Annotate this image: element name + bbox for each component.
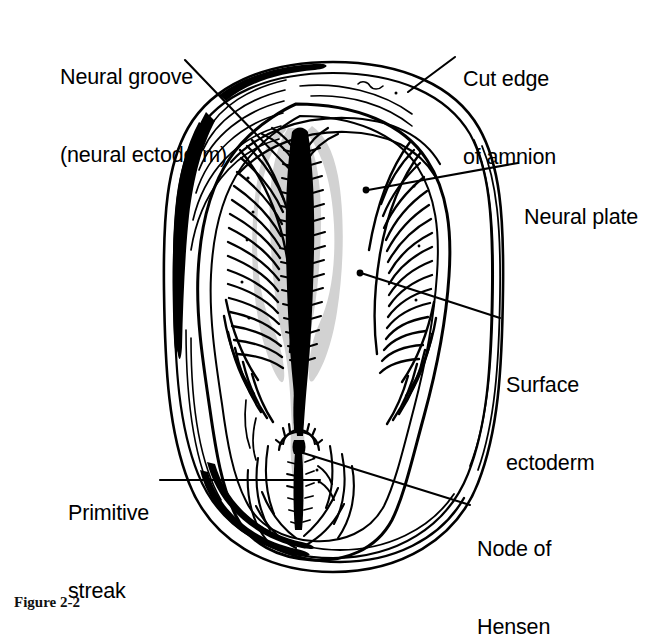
label-surface-ectoderm-line2: ectoderm [506,450,594,476]
label-neural-groove-line1: Neural groove [60,64,227,90]
leader-node-of-hensen [300,452,470,505]
label-node-of-hensen: Node of Hensen [477,484,551,638]
label-neural-plate: Neural plate [524,152,638,282]
label-surface-ectoderm-line1: Surface [506,372,594,398]
leader-dot-surface-ectoderm [357,270,364,277]
label-primitive-streak-line2: streak [68,578,149,604]
label-node-of-hensen-line1: Node of [477,536,551,562]
label-neural-groove: Neural groove (neural ectoderm) [60,12,227,220]
figure-caption: Figure 2-2 [14,594,80,611]
leader-cut-edge [408,57,455,92]
leader-dot-neural-plate [363,187,370,194]
leader-surface-ectoderm [361,273,500,318]
label-node-of-hensen-line2: Hensen [477,614,551,638]
label-neural-groove-line2: (neural ectoderm) [60,142,227,168]
label-primitive-streak-line1: Primitive [68,500,149,526]
label-cut-edge-line1: Cut edge [463,66,556,92]
label-neural-plate-line1: Neural plate [524,204,638,230]
label-primitive-streak: Primitive streak [68,448,149,638]
